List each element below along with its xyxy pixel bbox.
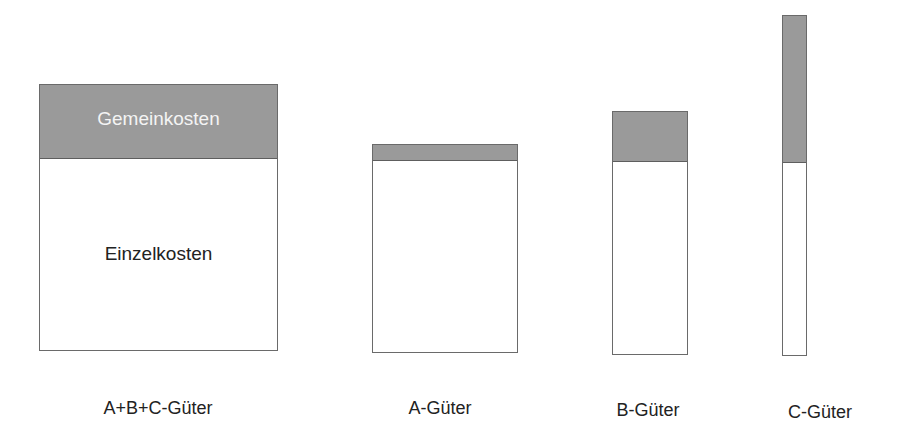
bar-c-goods — [782, 15, 807, 356]
bar-b-goods — [612, 111, 688, 355]
caption-abc-goods: A+B+C-Güter — [103, 398, 212, 419]
direct-cost-label: Einzelkosten — [40, 243, 277, 265]
overhead-cost-segment: Gemeinkosten — [40, 85, 277, 159]
bar-abc-goods: Gemeinkosten Einzelkosten — [39, 84, 278, 351]
overhead-cost-label: Gemeinkosten — [40, 108, 277, 130]
overhead-cost-segment — [373, 145, 517, 161]
caption-b-goods: B-Güter — [616, 400, 679, 421]
bar-a-goods — [372, 144, 518, 353]
overhead-cost-segment — [783, 16, 806, 163]
caption-c-goods: C-Güter — [788, 402, 852, 423]
overhead-cost-segment — [613, 112, 687, 162]
caption-a-goods: A-Güter — [408, 398, 471, 419]
